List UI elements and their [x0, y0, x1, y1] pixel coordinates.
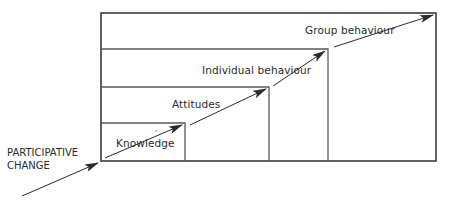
entry-label: PARTICIPATIVE CHANGE	[7, 146, 78, 172]
stage-label-attitudes: Attitudes	[172, 99, 220, 110]
speck-dot	[155, 130, 156, 131]
entry-label-line2: CHANGE	[7, 159, 78, 172]
stage-label-group-behaviour: Group behaviour	[305, 25, 395, 36]
stage-label-knowledge: Knowledge	[116, 138, 175, 149]
participative-change-diagram: PARTICIPATIVE CHANGE Knowledge Attitudes…	[0, 0, 459, 205]
stage-label-individual-behaviour: Individual behaviour	[202, 65, 311, 76]
entry-label-line1: PARTICIPATIVE	[7, 146, 78, 159]
